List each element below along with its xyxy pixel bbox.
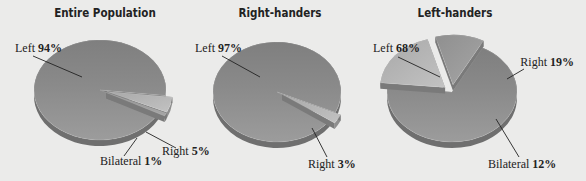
slice-label-name: Left	[195, 41, 218, 55]
slice-label-name: Right	[520, 55, 550, 69]
slice-label-value: 12%	[532, 157, 556, 171]
slice-label-value: 97%	[218, 41, 242, 55]
pie-slice-left	[34, 40, 166, 140]
pie-chart-3: Left-handersLeft 68%Right 19%Bilateral 1…	[373, 6, 574, 171]
slice-label-value: 68%	[396, 41, 420, 55]
slice-label-bilateral: Bilateral 12%	[488, 157, 556, 171]
pie-chart-2: Right-handersLeft 97%Right 3%	[195, 6, 356, 171]
pie-chart-1: Entire PopulationLeft 94%Right 5%Bilater…	[15, 6, 210, 168]
slice-label-value: 1%	[144, 154, 162, 168]
slice-label-value: 3%	[338, 157, 356, 171]
chart-title: Left-handers	[418, 6, 493, 20]
leader-line	[496, 119, 519, 157]
slice-label-value: 94%	[38, 41, 62, 55]
slice-label-left: Left 68%	[373, 41, 420, 55]
chart-title: Right-handers	[239, 6, 322, 20]
slice-label-name: Left	[373, 41, 396, 55]
slice-label-left: Left 94%	[15, 41, 62, 55]
pie-slice-left	[213, 42, 341, 142]
slice-label-right: Right 3%	[308, 157, 356, 171]
slice-label-right: Right 5%	[162, 144, 210, 158]
slice-label-name: Right	[162, 144, 192, 158]
slice-label-name: Right	[308, 157, 338, 171]
slice-label-bilateral: Bilateral 1%	[100, 154, 162, 168]
slice-label-name: Bilateral	[100, 154, 144, 168]
slice-label-left: Left 97%	[195, 41, 242, 55]
slice-label-value: 5%	[192, 144, 210, 158]
slice-label-name: Bilateral	[488, 157, 532, 171]
handedness-pie-charts: Entire PopulationLeft 94%Right 5%Bilater…	[0, 0, 586, 181]
slice-label-value: 19%	[550, 55, 574, 69]
chart-title: Entire Population	[54, 6, 156, 20]
slice-label-right: Right 19%	[520, 55, 574, 69]
slice-label-name: Left	[15, 41, 38, 55]
